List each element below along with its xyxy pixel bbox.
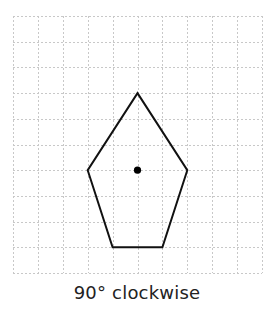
square-grid: [13, 16, 263, 274]
rotation-caption: 90° clockwise: [0, 282, 269, 303]
center-of-rotation-dot: [134, 167, 141, 174]
rotation-diagram: [0, 0, 269, 313]
